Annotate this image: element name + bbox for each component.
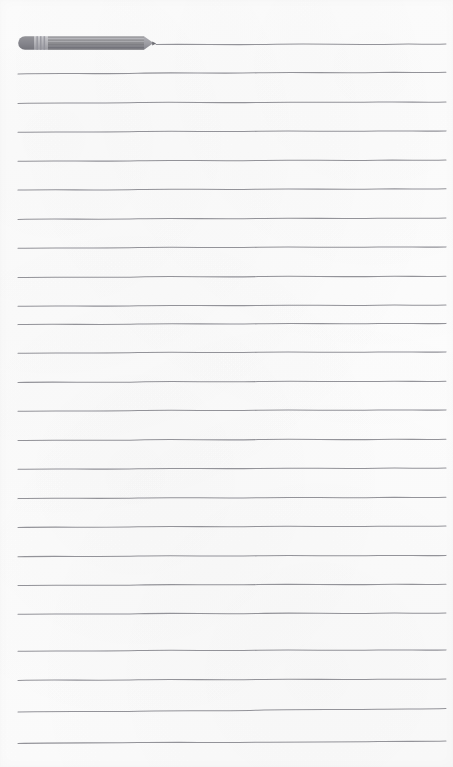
lined-paper-page [0, 0, 453, 767]
pencil-eraser [18, 36, 34, 50]
pencil-tip-cone [144, 36, 154, 50]
pencil-barrel-stripe [48, 38, 144, 39]
pencil-barrel-stripe [48, 44, 144, 45]
pencil-barrel-stripe [48, 47, 144, 48]
pencil-barrel-stripe [48, 41, 144, 42]
pencil-ferrule-ridge [44, 36, 46, 50]
pencil-lead [152, 41, 156, 45]
pencil-ferrule-ridge [36, 36, 38, 50]
pencil-ferrule-ridge [40, 36, 42, 50]
pencil-icon [0, 0, 453, 767]
